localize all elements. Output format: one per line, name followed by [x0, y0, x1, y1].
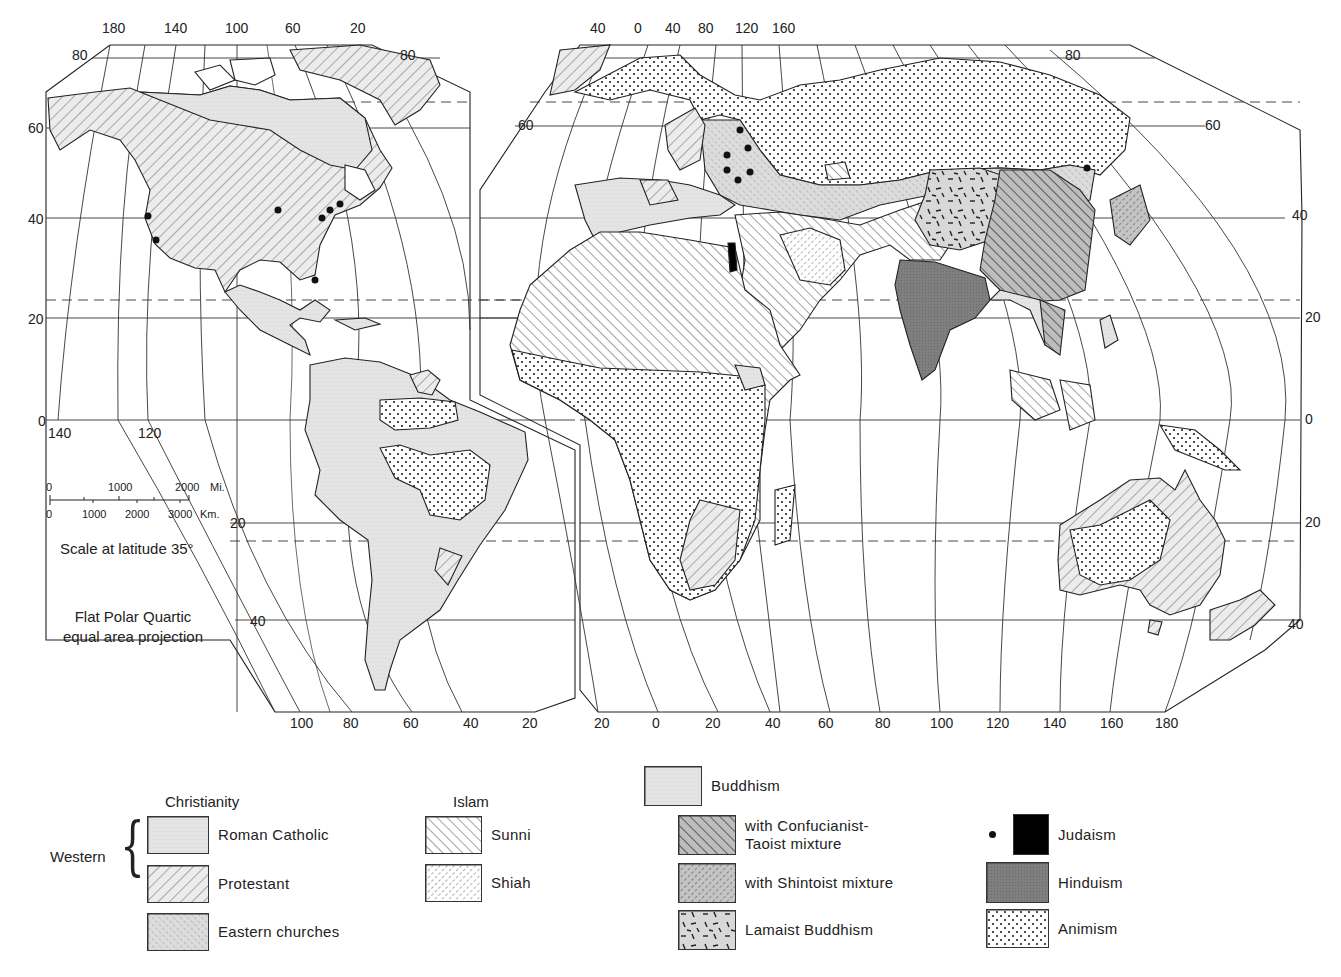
- legend-label: Animism: [1058, 920, 1118, 938]
- svg-text:0: 0: [46, 481, 52, 493]
- legend-item-eastern-churches: Eastern churches: [147, 913, 340, 951]
- south-america: [305, 358, 528, 690]
- legend-label: Judaism: [1058, 826, 1116, 844]
- projection-note-line1: Flat Polar Quartic: [68, 608, 198, 625]
- svg-text:80: 80: [698, 20, 714, 36]
- legend-item-shiah: Shiah: [425, 864, 531, 902]
- svg-text:60: 60: [518, 117, 534, 133]
- legend-heading-christianity: Christianity: [165, 793, 239, 810]
- svg-text:2000: 2000: [125, 508, 149, 520]
- svg-text:40: 40: [590, 20, 606, 36]
- svg-text:120: 120: [986, 715, 1010, 731]
- svg-text:160: 160: [772, 20, 796, 36]
- svg-text:Km.: Km.: [200, 508, 220, 520]
- svg-text:20: 20: [28, 311, 44, 327]
- svg-text:20: 20: [1305, 514, 1321, 530]
- north-america: [48, 45, 440, 355]
- svg-text:Mi.: Mi.: [210, 481, 225, 493]
- legend-label: Buddhism: [711, 777, 780, 795]
- legend-item-protestant: Protestant: [147, 865, 289, 903]
- legend-label: with Shintoist mixture: [745, 874, 893, 892]
- legend-item-roman-catholic: Roman Catholic: [147, 816, 329, 854]
- svg-text:1000: 1000: [82, 508, 106, 520]
- svg-text:20: 20: [1305, 309, 1321, 325]
- svg-text:80: 80: [72, 47, 88, 63]
- svg-text:40: 40: [765, 715, 781, 731]
- svg-text:40: 40: [665, 20, 681, 36]
- svg-text:40: 40: [28, 211, 44, 227]
- legend-label: Protestant: [218, 875, 289, 893]
- svg-text:180: 180: [102, 20, 126, 36]
- svg-text:40: 40: [1288, 616, 1304, 632]
- svg-text:0: 0: [38, 413, 46, 429]
- protestant-swatch: [147, 865, 209, 903]
- svg-text:20: 20: [705, 715, 721, 731]
- svg-text:120: 120: [735, 20, 759, 36]
- legend-group-western: Western: [50, 848, 106, 865]
- oceania: [1058, 425, 1275, 640]
- legend-label: Shiah: [491, 874, 531, 892]
- legend-item-buddhism: Buddhism: [644, 766, 780, 806]
- svg-text:100: 100: [225, 20, 249, 36]
- svg-text:40: 40: [463, 715, 479, 731]
- legend-label: Sunni: [491, 826, 531, 844]
- buddhism-swatch: [644, 766, 702, 806]
- confucianist-taoist-swatch: [678, 815, 736, 855]
- eastern-churches-swatch: [147, 913, 209, 951]
- svg-text:100: 100: [290, 715, 314, 731]
- projection-note-line2: equal area projection: [56, 628, 210, 645]
- svg-text:3000: 3000: [168, 508, 192, 520]
- legend-label: Eastern churches: [218, 923, 340, 941]
- sunni-swatch: [425, 816, 482, 854]
- animism-swatch: [986, 909, 1049, 948]
- svg-text:0: 0: [46, 508, 52, 520]
- svg-text:140: 140: [164, 20, 188, 36]
- legend-item-animism: Animism: [986, 909, 1118, 948]
- svg-text:0: 0: [634, 20, 642, 36]
- legend-label: Hinduism: [1058, 874, 1123, 892]
- legend-label: Lamaist Buddhism: [745, 921, 873, 939]
- scale-bar: 0 1000 2000 Mi. 0 1000 2000 3000 Km.: [46, 481, 225, 520]
- legend-item-hinduism: Hinduism: [986, 862, 1123, 903]
- legend: Christianity Western { Roman Catholic Pr…: [0, 760, 1341, 977]
- svg-text:80: 80: [1065, 47, 1081, 63]
- svg-text:80: 80: [343, 715, 359, 731]
- shintoist-swatch: [678, 863, 736, 903]
- svg-text:20: 20: [350, 20, 366, 36]
- svg-text:60: 60: [285, 20, 301, 36]
- svg-text:80: 80: [875, 715, 891, 731]
- svg-text:60: 60: [1205, 117, 1221, 133]
- svg-text:40: 40: [250, 613, 266, 629]
- svg-text:60: 60: [28, 120, 44, 136]
- svg-text:60: 60: [403, 715, 419, 731]
- svg-text:2000: 2000: [175, 481, 199, 493]
- svg-text:0: 0: [1305, 411, 1313, 427]
- svg-text:20: 20: [594, 715, 610, 731]
- legend-item-confucianist-taoist: with Confucianist-Taoist mixture: [678, 815, 869, 855]
- legend-item-judaism: Judaism: [1013, 814, 1116, 855]
- world-religions-map: 180 140 100 60 20 80 80 60 40 20 0 140 1…: [0, 0, 1341, 760]
- svg-text:80: 80: [400, 47, 416, 63]
- svg-text:0: 0: [652, 715, 660, 731]
- legend-label: Roman Catholic: [218, 826, 329, 844]
- legend-heading-islam: Islam: [453, 793, 489, 810]
- legend-label: with Confucianist-Taoist mixture: [745, 817, 869, 853]
- svg-text:160: 160: [1100, 715, 1124, 731]
- svg-text:120: 120: [138, 425, 162, 441]
- legend-item-shintoist: with Shintoist mixture: [678, 863, 893, 903]
- scale-caption: Scale at latitude 35°: [60, 540, 194, 557]
- svg-text:180: 180: [1155, 715, 1179, 731]
- judaism-swatch: [1013, 814, 1049, 855]
- svg-text:40: 40: [1292, 207, 1308, 223]
- judaism-dot-icon: [989, 831, 996, 838]
- svg-text:1000: 1000: [108, 481, 132, 493]
- svg-text:60: 60: [818, 715, 834, 731]
- lamaist-swatch: [678, 910, 736, 950]
- roman-catholic-swatch: [147, 816, 209, 854]
- brace-icon: {: [120, 814, 144, 878]
- legend-item-sunni: Sunni: [425, 816, 531, 854]
- svg-text:20: 20: [522, 715, 538, 731]
- svg-text:140: 140: [1043, 715, 1067, 731]
- svg-text:100: 100: [930, 715, 954, 731]
- legend-item-lamaist: Lamaist Buddhism: [678, 910, 873, 950]
